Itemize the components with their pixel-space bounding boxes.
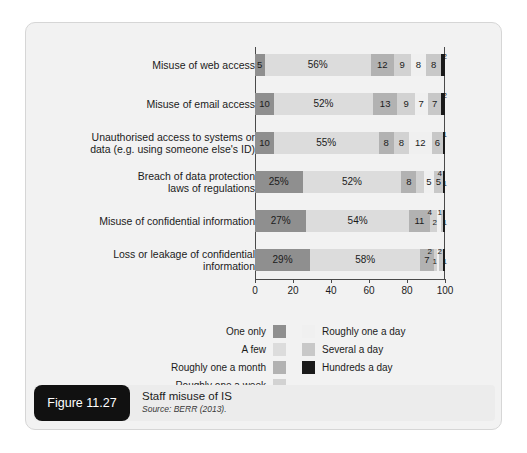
bar-segment-label: 1 bbox=[433, 258, 437, 266]
bar-segment: 55% bbox=[274, 132, 379, 154]
x-axis-tick bbox=[407, 279, 408, 283]
figure-number-badge: Figure 11.27 bbox=[34, 385, 130, 421]
bar-segment-label: 4 bbox=[438, 170, 442, 178]
bar-row-label: Misuse of email access bbox=[45, 97, 255, 110]
bar-segment: 13 bbox=[373, 93, 398, 115]
legend-swatch bbox=[302, 325, 315, 338]
bar-row: Misuse of confidential information27%54%… bbox=[26, 201, 503, 240]
figure-source: Source: BERR (2013). bbox=[142, 403, 232, 415]
legend-swatch bbox=[302, 343, 315, 356]
bar-segment bbox=[416, 171, 424, 193]
bar-segment-label: 1 bbox=[443, 219, 447, 227]
legend-item: A few bbox=[176, 341, 286, 357]
bar-segment: 52% bbox=[274, 93, 373, 115]
bar-segment: 9 bbox=[397, 93, 414, 115]
bar-segment-label: 1 bbox=[438, 209, 442, 217]
bar-segment-label: 4 bbox=[428, 209, 432, 217]
bar-segment-label: 2 bbox=[428, 248, 432, 256]
x-axis bbox=[255, 279, 445, 280]
legend-label: A few bbox=[242, 344, 266, 355]
legend-swatch bbox=[273, 361, 286, 374]
bar-segment-label: 2 bbox=[438, 248, 442, 256]
legend-label: One only bbox=[226, 326, 266, 337]
bar-segment: 25% bbox=[255, 171, 303, 193]
legend-item: Several a day bbox=[302, 341, 472, 357]
stacked-bar: 1052%139772 bbox=[255, 93, 445, 115]
bar-row-label: Misuse of confidential information bbox=[45, 214, 255, 227]
bar-segment: 5 bbox=[424, 171, 434, 193]
bar-row-label: Breach of data protection laws of regula… bbox=[45, 169, 255, 194]
bar-segment: 8 bbox=[426, 54, 441, 76]
bar-segment-label: 2 bbox=[443, 92, 447, 100]
figure-card: Misuse of web access556%129882Misuse of … bbox=[25, 22, 502, 430]
stacked-bar: 556%129882 bbox=[255, 54, 445, 76]
legend-swatch bbox=[273, 343, 286, 356]
bar-segment-label: 1 bbox=[443, 180, 447, 188]
x-axis-tick-label: 60 bbox=[363, 285, 374, 296]
legend-label: Roughly one a day bbox=[322, 326, 405, 337]
legend-item: Hundreds a day bbox=[302, 359, 472, 375]
bar-segment: 8 bbox=[401, 171, 416, 193]
x-axis-tick bbox=[255, 279, 256, 283]
bar-segment: 8 bbox=[379, 132, 394, 154]
bar-row-label: Misuse of web access bbox=[45, 58, 255, 71]
bar-segment-label: 2 bbox=[433, 219, 437, 227]
legend-swatch bbox=[273, 325, 286, 338]
x-axis-tick bbox=[445, 279, 446, 283]
bar-segment-label: 1 bbox=[443, 258, 447, 266]
x-axis-tick-label: 80 bbox=[401, 285, 412, 296]
stacked-bar: 25%52%85541 bbox=[255, 171, 445, 193]
bar-segment: 7 bbox=[428, 93, 441, 115]
x-axis-tick-label: 0 bbox=[252, 285, 258, 296]
bar-row-label: Loss or leakage of confidential informat… bbox=[45, 247, 255, 272]
bar-row-label: Unauthorised access to systems or data (… bbox=[45, 130, 255, 155]
bar-row: Breach of data protection laws of regula… bbox=[26, 162, 503, 201]
x-axis-tick-label: 20 bbox=[287, 285, 298, 296]
legend-item: Roughly one a day bbox=[302, 323, 472, 339]
bar-segment: 12 bbox=[409, 132, 432, 154]
stacked-bar: 29%58%72121 bbox=[255, 249, 445, 271]
bar-segment: 12 bbox=[371, 54, 394, 76]
bar-segment: 8 bbox=[411, 54, 426, 76]
bar-segment: 8 bbox=[394, 132, 409, 154]
bar-segment: 56% bbox=[265, 54, 371, 76]
bar-row: Misuse of email access1052%139772 bbox=[26, 84, 503, 123]
stacked-bar: 1055%881261 bbox=[255, 132, 445, 154]
bar-segment: 9 bbox=[394, 54, 411, 76]
bar-segment: 6 bbox=[432, 132, 443, 154]
figure-caption-bar: Figure 11.27 Staff misuse of IS Source: … bbox=[34, 385, 495, 421]
bar-row: Misuse of web access556%129882 bbox=[26, 45, 503, 84]
x-axis-tick bbox=[293, 279, 294, 283]
legend-swatch bbox=[302, 361, 315, 374]
bar-segment: 58% bbox=[310, 249, 420, 271]
chart-plot-area: Misuse of web access556%129882Misuse of … bbox=[26, 31, 503, 311]
bar-segment-label: 2 bbox=[443, 53, 447, 61]
legend-label: Several a day bbox=[322, 344, 383, 355]
legend-item: One only bbox=[176, 323, 286, 339]
x-axis-tick bbox=[369, 279, 370, 283]
bar-segment: 5 bbox=[255, 54, 265, 76]
bar-row: Unauthorised access to systems or data (… bbox=[26, 123, 503, 162]
bar-segment-label: 1 bbox=[443, 131, 447, 139]
figure-title: Staff misuse of IS bbox=[142, 389, 232, 403]
legend-label: Hundreds a day bbox=[322, 362, 393, 373]
bar-rows: Misuse of web access556%129882Misuse of … bbox=[26, 45, 503, 279]
legend-item: Roughly one a month bbox=[176, 359, 286, 375]
x-axis-tick bbox=[331, 279, 332, 283]
legend-column-right: Roughly one a daySeveral a dayHundreds a… bbox=[302, 323, 472, 377]
x-axis-tick-label: 40 bbox=[325, 285, 336, 296]
figure-caption-text: Staff misuse of IS Source: BERR (2013). bbox=[142, 389, 232, 415]
bar-segment: 10 bbox=[255, 132, 274, 154]
bar-segment: 52% bbox=[303, 171, 402, 193]
bar-segment: 29% bbox=[255, 249, 310, 271]
bar-row: Loss or leakage of confidential informat… bbox=[26, 240, 503, 279]
x-axis-tick-label: 100 bbox=[437, 285, 454, 296]
bar-segment: 54% bbox=[306, 210, 409, 232]
bar-segment: 7 bbox=[415, 93, 428, 115]
stacked-bar: 27%54%114211 bbox=[255, 210, 445, 232]
bar-segment: 10 bbox=[255, 93, 274, 115]
legend-label: Roughly one a month bbox=[171, 362, 266, 373]
bar-segment: 27% bbox=[255, 210, 306, 232]
